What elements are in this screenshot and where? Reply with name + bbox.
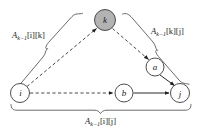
brace-label-i-k: Ak−1[i][k] — [11, 30, 45, 41]
diagram-canvas: k a i b j Ak−1[i][k] — [0, 0, 202, 131]
brace-label-i-j: Ak−1[i][j] — [84, 116, 116, 127]
svg-text:Ak−1[i][k]: Ak−1[i][k] — [11, 30, 45, 41]
node-a[interactable]: a — [146, 58, 164, 76]
brace-label-i-k-subscript: k−1 — [17, 35, 27, 41]
brace-label-k-j: Ak−1[k][j] — [150, 26, 184, 37]
node-j[interactable]: j — [171, 84, 190, 103]
node-b-label: b — [122, 88, 127, 98]
brace-label-k-j-indices: [k][j] — [166, 26, 184, 36]
node-j-label: j — [178, 89, 182, 99]
brace-label-i-j-indices: [i][j] — [100, 116, 116, 126]
edge-a-to-j — [160, 75, 175, 86]
brace-label-k-j-subscript: k−1 — [156, 31, 166, 37]
brace-label-i-k-indices: [i][k] — [27, 30, 45, 40]
node-k[interactable]: k — [95, 10, 116, 31]
floyd-warshall-diagram: k a i b j Ak−1[i][k] — [0, 0, 202, 131]
svg-text:Ak−1[k][j]: Ak−1[k][j] — [150, 26, 184, 37]
edge-k-to-a — [113, 29, 149, 60]
brace-label-i-j-subscript: k−1 — [90, 121, 100, 127]
brace-i-to-j — [11, 105, 191, 114]
node-i[interactable]: i — [11, 84, 30, 103]
svg-text:Ak−1[i][j]: Ak−1[i][j] — [84, 116, 116, 127]
node-b[interactable]: b — [115, 84, 133, 102]
node-a-label: a — [153, 62, 158, 72]
